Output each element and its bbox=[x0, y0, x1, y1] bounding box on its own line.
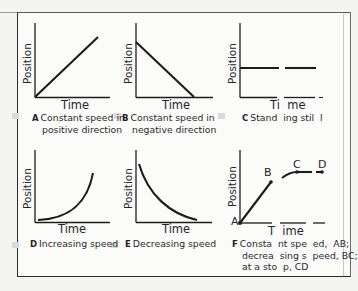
y-axis-label-b: Position bbox=[122, 43, 134, 84]
x-axis-label-c: Ti me bbox=[270, 98, 305, 112]
caption-b-letter: B bbox=[122, 113, 128, 123]
y-axis-label-c: Position bbox=[226, 43, 238, 84]
caption-d: DIncreasing speed bbox=[30, 238, 118, 250]
x-axis-label-f: T ime bbox=[268, 224, 304, 238]
point-b-label: B bbox=[264, 166, 272, 179]
caption-b-line1: Constant speed in bbox=[130, 112, 214, 123]
caption-a-line2: positive direction bbox=[32, 124, 122, 135]
point-a-label: A bbox=[231, 215, 239, 228]
caption-f-line3: at a sto p, CD bbox=[232, 261, 309, 272]
caption-d-letter: D bbox=[30, 239, 37, 249]
graph-c bbox=[240, 23, 323, 98]
caption-c: CStand ing stil l bbox=[242, 112, 323, 124]
x-axis-label-a: Time bbox=[61, 98, 89, 112]
caption-d-line1: Increasing speed bbox=[39, 238, 118, 249]
point-b-marker bbox=[269, 180, 273, 184]
graph-f bbox=[240, 150, 325, 223]
margin-mark bbox=[12, 113, 19, 119]
caption-a-letter: A bbox=[32, 113, 39, 123]
caption-f-letter: F bbox=[232, 239, 238, 249]
caption-b-line2: negative direction bbox=[122, 124, 216, 135]
y-axis-label-d: Position bbox=[21, 168, 33, 209]
caption-f-line1: Consta nt spe ed, AB; bbox=[240, 238, 349, 249]
graph-f-points bbox=[238, 170, 324, 225]
margin-mark bbox=[12, 242, 19, 248]
point-d-label: D bbox=[318, 158, 326, 171]
graph-d bbox=[35, 150, 110, 223]
caption-c-line1: Stand ing stil l bbox=[250, 112, 322, 123]
caption-e-line1: Decreasing speed bbox=[133, 238, 216, 249]
x-axis-label-b: Time bbox=[162, 98, 190, 112]
y-axis-label-a: Position bbox=[21, 43, 33, 84]
caption-f-line2: decrea sing s peed, BC; bbox=[232, 250, 358, 261]
y-axis-label-f: Position bbox=[226, 166, 238, 207]
graph-e bbox=[136, 150, 212, 223]
x-axis-label-d: Time bbox=[58, 222, 86, 236]
caption-e: EDecreasing speed bbox=[125, 238, 216, 250]
graph-a bbox=[35, 23, 110, 98]
graph-b bbox=[136, 23, 213, 98]
caption-a-line1: Constant speed in bbox=[41, 112, 125, 123]
caption-c-letter: C bbox=[242, 113, 248, 123]
point-c-label: C bbox=[293, 158, 301, 171]
caption-a: AConstant speed in positive direction bbox=[32, 112, 125, 135]
y-axis-label-e: Position bbox=[122, 168, 134, 209]
x-axis-label-e: Time bbox=[162, 222, 190, 236]
caption-e-letter: E bbox=[125, 239, 131, 249]
margin-mark bbox=[218, 113, 225, 119]
caption-b: BConstant speed in negative direction bbox=[122, 112, 216, 135]
caption-f: FConsta nt spe ed, AB; decrea sing s pee… bbox=[232, 238, 358, 273]
